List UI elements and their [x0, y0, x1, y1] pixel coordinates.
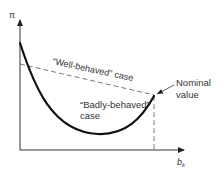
badly-behaved-label: “Badly-behaved”: [80, 99, 150, 110]
nominal-pointer-arrow: [157, 85, 174, 94]
diagram-canvas: π bk “Well-behaved” case “Badly-behaved”…: [0, 0, 224, 174]
x-axis-label: bk: [177, 157, 186, 168]
nominal-value-label: Nominal: [176, 77, 211, 88]
nominal-value-label-line2: value: [176, 89, 199, 100]
badly-behaved-label-case: case: [80, 110, 100, 121]
well-behaved-label: “Well-behaved” case: [52, 56, 135, 83]
y-axis-label: π: [9, 10, 15, 20]
